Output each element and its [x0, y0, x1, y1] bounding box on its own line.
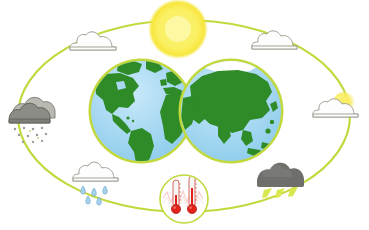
weather-icon-cloud-top-right — [252, 31, 297, 49]
climate-illustration — [0, 0, 369, 230]
weather-icon-snow-left — [9, 97, 55, 143]
weather-icon-cloud-top-left — [70, 32, 116, 50]
thermometer-badge — [160, 175, 208, 223]
weather-icon-sun-cloud-right — [313, 92, 358, 117]
weather-icon-storm-bottom-right — [257, 163, 304, 198]
weather-icon-rain-bottom-left — [73, 162, 118, 205]
illustration-stage: Earth climate and weather cycle illustra… — [0, 0, 369, 230]
sun-icon — [148, 0, 208, 59]
globe-eurasia — [179, 57, 284, 166]
